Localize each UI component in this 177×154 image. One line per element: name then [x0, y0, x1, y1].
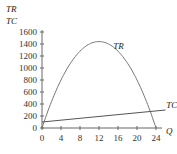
x-tick-label: 8 [78, 133, 83, 143]
x-tick-label: 24 [152, 133, 162, 143]
y-tick-label: 200 [24, 111, 38, 121]
x-label: Q [166, 126, 173, 136]
x-tick-label: 4 [59, 133, 64, 143]
y-tick-label: 0 [33, 123, 38, 133]
tc-label: TC [166, 100, 177, 110]
x-tick-label: 0 [40, 133, 45, 143]
x-tick-label: 20 [133, 133, 143, 143]
y-tick-label: 600 [24, 87, 38, 97]
y-tick-label: 1400 [19, 39, 38, 49]
x-tick-label: 12 [95, 133, 104, 143]
y-tick-label: 1000 [19, 63, 38, 73]
tc-line [42, 110, 166, 122]
y-tick-label: 800 [24, 75, 38, 85]
y-label-tc: TC [6, 16, 18, 26]
y-tick-label: 1600 [19, 27, 38, 37]
tr-curve [42, 42, 156, 128]
tr-label: TR [113, 41, 124, 51]
y-tick-label: 1200 [19, 51, 38, 61]
y-label-tr: TR [6, 4, 17, 14]
x-tick-label: 16 [114, 133, 124, 143]
chart: 02004006008001000120014001600 0481216202… [0, 0, 177, 154]
y-tick-label: 400 [24, 99, 38, 109]
